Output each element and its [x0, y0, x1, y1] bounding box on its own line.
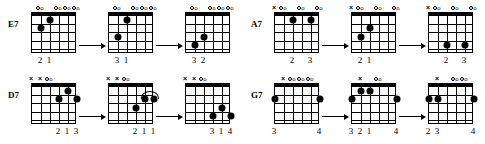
fretboard: [351, 12, 396, 53]
finger-dot: [435, 96, 442, 103]
fretboard: [351, 83, 396, 124]
string-markers: oooo: [108, 4, 153, 12]
finger-number: 1: [148, 125, 158, 137]
right-arrow-icon: [77, 112, 107, 122]
finger-dot: [65, 88, 72, 95]
finger-dot: [471, 96, 478, 103]
fret-line: [352, 120, 395, 121]
open-string-icon: o: [306, 75, 314, 83]
chord-chart-sheet: E7oooo21oooo31oooo32 A7×ooo23×ooo21×ooo2…: [0, 0, 485, 144]
chord-diagram: oooo21: [30, 4, 77, 66]
fret-line: [32, 112, 75, 113]
open-string-icon: o: [122, 75, 130, 83]
open-string-icon: o: [72, 4, 80, 12]
muted-string-icon: ×: [104, 75, 112, 83]
finger-dot: [444, 41, 451, 48]
fretboard: [108, 12, 153, 53]
finger-number: 2: [287, 54, 297, 66]
string-line: [465, 87, 466, 123]
string-markers: ×ooo: [274, 4, 319, 12]
fret-line: [186, 120, 229, 121]
fret-line: [109, 103, 152, 104]
fretboard: [274, 12, 319, 53]
chord-diagram: ××o314: [184, 75, 231, 137]
string-line: [438, 16, 439, 52]
open-string-icon: o: [451, 4, 459, 12]
finger-number: 4: [225, 125, 235, 137]
string-line: [293, 87, 294, 123]
open-string-icon: o: [288, 75, 296, 83]
right-arrow-icon: [77, 41, 107, 51]
arrow-shaft: [322, 116, 345, 117]
fret-line: [275, 32, 318, 33]
string-markers: ××o: [108, 75, 153, 83]
string-markers: ××o: [31, 75, 76, 83]
fret-line: [429, 103, 472, 104]
string-line: [456, 16, 457, 52]
open-string-icon: o: [374, 4, 382, 12]
fretboard: [185, 12, 230, 53]
muted-string-icon: ×: [27, 75, 35, 83]
chord-sequence: oooo21oooo31oooo32: [30, 4, 231, 66]
fret-line: [429, 112, 472, 113]
string-line: [68, 16, 69, 52]
string-line: [145, 16, 146, 52]
string-markers: ×ooo: [428, 4, 473, 12]
finger-dot: [38, 25, 45, 32]
string-line: [41, 87, 42, 123]
fret-line: [186, 24, 229, 25]
string-line: [456, 87, 457, 123]
fret-line: [32, 41, 75, 42]
string-line: [388, 16, 389, 52]
string-line: [284, 16, 285, 52]
open-string-icon: o: [190, 4, 198, 12]
arrow-shaft: [79, 116, 102, 117]
finger-numbers: 21: [351, 54, 396, 66]
fret-line: [32, 49, 75, 50]
fret-line: [275, 24, 318, 25]
finger-dot: [308, 17, 315, 24]
finger-dot: [358, 88, 365, 95]
finger-numbers: 3214: [351, 125, 396, 137]
chord-diagram: ×ooo21: [350, 4, 397, 66]
chord-diagram: oooo32: [184, 4, 231, 66]
finger-dot: [210, 112, 217, 119]
muted-string-icon: ×: [347, 4, 355, 12]
finger-numbers: 21: [31, 54, 76, 66]
fret-line: [275, 112, 318, 113]
string-line: [136, 16, 137, 52]
fret-line: [429, 120, 472, 121]
open-string-icon: o: [45, 75, 53, 83]
finger-dot: [349, 96, 356, 103]
finger-number: 4: [468, 125, 478, 137]
finger-dot: [290, 17, 297, 24]
finger-numbers: 314: [185, 125, 230, 137]
chord-diagram: ×ooo23: [273, 4, 320, 66]
chord-diagram: oooo31: [107, 4, 154, 66]
fret-line: [32, 95, 75, 96]
arrow-head: [178, 114, 183, 120]
string-line: [311, 87, 312, 123]
string-line: [50, 87, 51, 123]
chord-sequence: ×ooo34×o3214×oo234: [273, 75, 474, 137]
muted-string-icon: ×: [279, 75, 287, 83]
fret-line: [275, 95, 318, 96]
fret-line: [186, 95, 229, 96]
string-line: [195, 87, 196, 123]
string-markers: ××o: [185, 75, 230, 83]
right-arrow-icon: [154, 112, 184, 122]
fretboard: [274, 83, 319, 124]
fret-line: [275, 103, 318, 104]
open-string-icon: o: [113, 4, 121, 12]
muted-string-icon: ×: [356, 75, 364, 83]
chord-diagram: ××o211: [107, 75, 154, 137]
string-line: [438, 87, 439, 123]
arrow-shaft: [156, 116, 179, 117]
right-arrow-icon: [397, 112, 427, 122]
arrow-head: [178, 43, 183, 49]
arrow-shaft: [399, 116, 422, 117]
open-string-icon: o: [54, 4, 62, 12]
fret-line: [32, 32, 75, 33]
open-string-icon: o: [315, 4, 323, 12]
chord-progression-e7: E7oooo21oooo31oooo32: [8, 4, 231, 66]
